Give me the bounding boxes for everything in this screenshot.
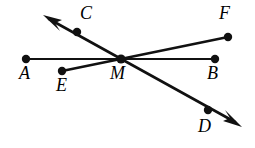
geometry-figure-canvas: A B C D E F M <box>0 0 255 148</box>
point-label-a: A <box>19 64 30 82</box>
point-dot-d <box>204 106 212 114</box>
point-label-c: C <box>80 4 92 22</box>
arrow-down-right-icon <box>223 110 242 127</box>
point-label-e: E <box>56 76 67 94</box>
segment-ef <box>62 37 228 71</box>
point-label-f: F <box>219 4 230 22</box>
point-label-d: D <box>198 117 211 135</box>
point-label-b: B <box>207 64 218 82</box>
point-dot-a <box>22 55 30 63</box>
point-label-m: M <box>110 64 125 82</box>
point-dot-f <box>224 33 232 41</box>
point-dot-c <box>73 28 81 36</box>
point-dot-e <box>58 67 66 75</box>
arrow-up-left-icon <box>43 15 62 31</box>
point-dot-b <box>211 55 219 63</box>
